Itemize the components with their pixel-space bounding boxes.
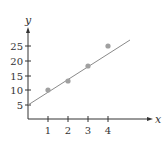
x-axis-label: x (155, 113, 162, 126)
x-axis-arrow-icon (147, 117, 153, 121)
fit-line (28, 40, 130, 105)
y-axis-arrow-icon (26, 27, 30, 33)
x-tick-label: 3 (85, 125, 91, 136)
y-axis-label: y (24, 14, 32, 27)
scatter-chart: y x 5 10 15 20 25 1 2 3 4 (0, 0, 167, 143)
y-tick-label: 10 (10, 85, 23, 96)
y-tick-label: 25 (10, 41, 23, 52)
y-tick-label: 20 (10, 56, 23, 67)
x-tick-label: 4 (105, 125, 111, 136)
data-point (105, 43, 110, 48)
y-tick-label: 5 (17, 100, 23, 111)
data-point (85, 63, 90, 68)
x-tick-label: 1 (45, 125, 51, 136)
data-point (65, 78, 70, 83)
data-point (45, 87, 50, 92)
y-tick-label: 15 (10, 71, 23, 82)
x-tick-label: 2 (65, 125, 71, 136)
